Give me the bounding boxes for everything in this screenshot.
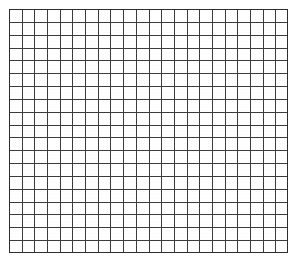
image-canvas: Blank graph paper grid (0, 0, 301, 266)
graph-paper-grid (9, 9, 288, 253)
grid-lines (9, 9, 288, 253)
